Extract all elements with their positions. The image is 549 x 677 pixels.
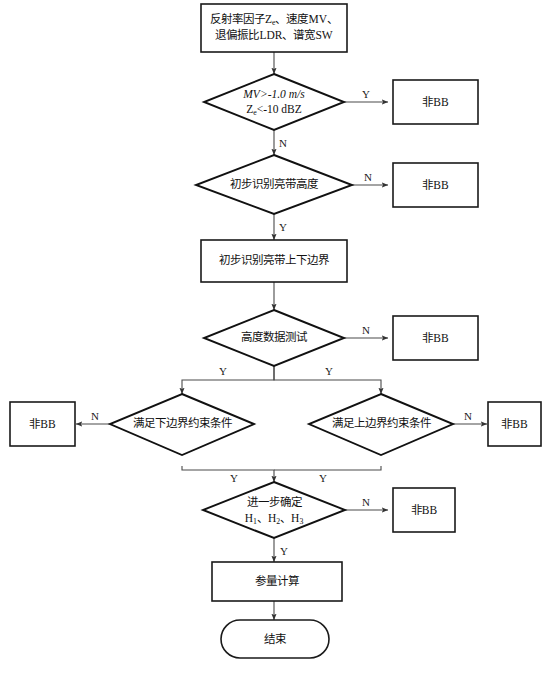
edge-label-heighttest-yes-left: Y [219, 365, 227, 377]
edge-label-heighttest-no: N [362, 324, 370, 336]
reject-6-label: 非BB [411, 504, 438, 516]
reject-4-label: 非BB [29, 418, 56, 430]
node-reject-5[interactable]: 非BB [488, 402, 541, 446]
edge-lowerbound-yes [182, 466, 274, 482]
edge-upperbound-yes [274, 466, 381, 470]
decision-bbheight-label: 初步识别亮带高度 [230, 177, 319, 190]
reject-3-label: 非BB [422, 332, 449, 344]
node-terminator-end[interactable]: 结束 [221, 620, 329, 658]
edge-label-upperbound-yes: Y [319, 472, 327, 484]
edge-label-bbheight-no: N [364, 171, 372, 183]
node-process-bb-bounds[interactable]: 初步识别亮带上下边界 [201, 240, 347, 282]
input-line1-label: 反射率因子Z [210, 12, 272, 25]
input-line1-tail: 、速度MV、 [275, 12, 338, 25]
edge-label-lowerbound-no: N [91, 410, 99, 422]
confirm-h1: H [245, 512, 253, 524]
flowchart-canvas: 反射率因子Ze、速度MV、 退偏振比LDR、谱宽SW MV>-1.0 m/s Z… [0, 0, 549, 677]
decision-mvze-line1: MV>-1.0 m/s [242, 88, 305, 100]
confirm-sep-1: 、 [257, 512, 268, 524]
terminator-end-label: 结束 [264, 633, 287, 645]
process-paramcalc-label: 参量计算 [255, 574, 299, 587]
process-bbbounds-label: 初步识别亮带上下边界 [219, 253, 330, 266]
confirm-h3-sub: 3 [299, 516, 303, 525]
edge-label-upperbound-no: N [464, 410, 472, 422]
node-reject-4[interactable]: 非BB [10, 402, 75, 446]
node-reject-6[interactable]: 非BB [393, 488, 455, 532]
node-decision-confirm-h[interactable]: 进一步确定 H1、H2、H3 [203, 482, 345, 538]
decision-confirm-line1: 进一步确定 [247, 495, 303, 508]
confirm-sep-2: 、 [280, 512, 291, 524]
edge-label-lowerbound-yes: Y [230, 472, 238, 484]
node-decision-lower-bound[interactable]: 满足下边界约束条件 [110, 394, 254, 455]
edge-label-confirm-yes: Y [280, 545, 288, 557]
reject-1-label: 非BB [422, 96, 449, 108]
decision-mvze-line2-post: <-10 dBZ [257, 103, 302, 115]
input-line2-label: 退偏振比LDR、谱宽SW [215, 28, 332, 41]
edge-label-heighttest-yes-right: Y [325, 365, 333, 377]
node-decision-bb-height[interactable]: 初步识别亮带高度 [196, 155, 352, 214]
node-reject-1[interactable]: 非BB [393, 80, 478, 124]
edge-label-bbheight-yes: Y [279, 221, 287, 233]
node-decision-mv-ze[interactable]: MV>-1.0 m/s Ze<-10 dBZ [204, 74, 344, 130]
reject-2-label: 非BB [422, 179, 449, 191]
node-process-param-calc[interactable]: 参量计算 [212, 562, 342, 601]
node-input-params[interactable]: 反射率因子Ze、速度MV、 退偏振比LDR、谱宽SW [201, 4, 347, 52]
flowchart-svg: 反射率因子Ze、速度MV、 退偏振比LDR、谱宽SW MV>-1.0 m/s Z… [0, 0, 549, 677]
edge-label-confirm-no: N [362, 496, 370, 508]
decision-heighttest-label: 高度数据测试 [241, 330, 308, 343]
decision-mvze-line2-pre: Z [246, 103, 253, 115]
node-decision-height-test[interactable]: 高度数据测试 [204, 310, 344, 366]
node-reject-2[interactable]: 非BB [393, 163, 478, 207]
confirm-h3: H [291, 512, 299, 524]
edge-heighttest-yes-left [182, 366, 274, 394]
confirm-h2: H [268, 512, 276, 524]
node-reject-3[interactable]: 非BB [393, 316, 478, 360]
edge-label-mvze-yes: Y [362, 88, 370, 100]
reject-5-label: 非BB [501, 418, 528, 430]
decision-upperbound-label: 满足上边界约束条件 [332, 416, 431, 429]
decision-lowerbound-label: 满足下边界约束条件 [133, 416, 232, 429]
edge-label-mvze-no: N [279, 137, 287, 149]
node-decision-upper-bound[interactable]: 满足上边界约束条件 [309, 394, 453, 455]
